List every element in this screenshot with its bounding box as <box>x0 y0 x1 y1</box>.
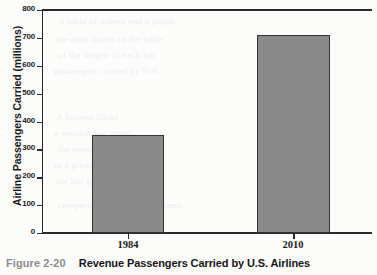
bar-2010 <box>257 35 330 233</box>
x-tick-label-1984: 1984 <box>88 239 168 250</box>
bar-chart-figure: Airline Passengers Carried (millions) 80… <box>0 0 377 248</box>
y-tick-label: 500 <box>22 88 35 97</box>
y-tick-mark <box>37 10 42 11</box>
y-tick-mark <box>37 38 42 39</box>
y-tick-label: 400 <box>22 116 35 125</box>
figure-caption-title: Revenue Passengers Carried by U.S. Airli… <box>79 257 310 269</box>
figure-number-label: Figure 2-20 <box>6 257 66 269</box>
y-tick-mark <box>37 122 42 123</box>
y-tick-label: 300 <box>22 143 35 152</box>
y-tick-mark <box>37 149 42 150</box>
x-tick-label-2010: 2010 <box>253 239 333 250</box>
bar-1984 <box>92 135 164 233</box>
y-tick-mark <box>37 205 42 206</box>
y-tick-mark <box>37 94 42 95</box>
scanned-page: a table of values and a graph the data s… <box>0 0 377 275</box>
y-tick-label: 600 <box>22 60 35 69</box>
y-tick-label: 100 <box>22 199 35 208</box>
y-tick-label: 200 <box>22 171 35 180</box>
figure-caption: Figure 2-20 Revenue Passengers Carried b… <box>6 257 310 269</box>
y-tick-mark <box>37 66 42 67</box>
y-tick-label: 700 <box>22 32 35 41</box>
y-tick-mark <box>37 177 42 178</box>
y-axis-title: Airline Passengers Carried (millions) <box>11 1 23 231</box>
y-tick-label: 800 <box>22 4 35 13</box>
y-tick-mark <box>37 233 42 234</box>
y-tick-label: 0 <box>31 227 35 236</box>
